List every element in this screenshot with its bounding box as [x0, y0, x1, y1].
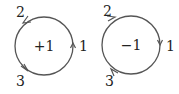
point-label-3: 3 — [105, 73, 114, 89]
circle-positive-orientation: +1 1 2 3 — [15, 4, 88, 89]
orientation-diagram: +1 1 2 3 −1 1 2 3 — [0, 0, 179, 94]
point-label-1: 1 — [79, 38, 88, 54]
circle-negative-orientation: −1 1 2 3 — [102, 3, 175, 89]
point-label-3: 3 — [16, 73, 25, 89]
point-label-2: 2 — [16, 4, 25, 20]
center-label: −1 — [121, 37, 142, 53]
center-label: +1 — [34, 38, 55, 54]
point-label-2: 2 — [103, 3, 112, 19]
point-label-1: 1 — [166, 38, 175, 54]
